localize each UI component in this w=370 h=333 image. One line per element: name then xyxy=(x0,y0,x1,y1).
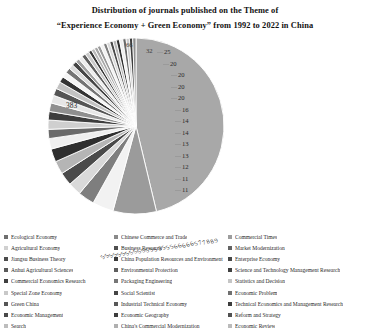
legend-swatch-icon xyxy=(4,313,8,317)
legend-swatch-icon xyxy=(228,268,232,272)
pie-leader-line xyxy=(171,98,177,99)
legend-item[interactable]: China's Commercial Modernization xyxy=(114,321,230,332)
pie-wrap xyxy=(46,36,226,216)
legend-item[interactable]: Commercial Times xyxy=(228,231,370,242)
pie-callout-label: 16 xyxy=(182,106,189,113)
pie-callout-label: 12 xyxy=(182,163,189,170)
legend-item-label: Search xyxy=(11,323,26,329)
legend-item-label: Technical Economics and Management Resea… xyxy=(235,301,343,307)
legend-item[interactable]: Reform and Strategy xyxy=(228,309,370,320)
legend-swatch-icon xyxy=(114,302,118,306)
legend-item[interactable]: Market Modernization xyxy=(228,242,370,253)
legend-swatch-icon xyxy=(114,246,118,250)
chart-title-line-1: Distribution of journals published on th… xyxy=(0,3,370,18)
legend-item[interactable]: Chinese Commerce and Trade xyxy=(114,231,230,242)
legend-swatch-icon xyxy=(114,257,118,261)
legend-swatch-icon xyxy=(114,324,118,328)
legend-swatch-icon xyxy=(4,257,8,261)
legend-swatch-icon xyxy=(228,291,232,295)
pie-callout-label: 11 xyxy=(182,186,188,193)
legend-item-label: Agricultural Economy xyxy=(11,245,60,251)
legend-swatch-icon xyxy=(114,235,118,239)
pie-leader-line xyxy=(171,87,177,88)
legend-item[interactable]: Packaging Engineering xyxy=(114,276,230,287)
pie-leader-line xyxy=(157,52,163,53)
legend-item-label: Market Modernization xyxy=(235,245,285,251)
pie-leader-line xyxy=(175,179,181,180)
legend-item[interactable]: Industrial Technical Economy xyxy=(114,298,230,309)
legend-column-1: Ecological EconomyAgricultural EconomyJi… xyxy=(4,231,116,332)
pie-leader-line xyxy=(163,64,169,65)
pie-leader-line xyxy=(171,75,177,76)
legend-swatch-icon xyxy=(4,291,8,295)
legend-item[interactable]: Enterprise Economy xyxy=(228,253,370,264)
legend-swatch-icon xyxy=(4,324,8,328)
legend-item-label: Science and Technology Management Resear… xyxy=(235,267,340,273)
pie-callout-label: 20 xyxy=(170,60,177,67)
legend-item[interactable]: Search xyxy=(4,321,116,332)
legend-item-label: Industrial Technical Economy xyxy=(121,301,187,307)
pie-leader-line xyxy=(175,133,181,134)
legend-item-label: Packaging Engineering xyxy=(121,278,172,284)
pie-label-major: 383 xyxy=(66,102,77,109)
legend-item[interactable]: Commercial Economics Research xyxy=(4,276,116,287)
legend-item-label: Green China xyxy=(11,301,39,307)
legend-item[interactable]: Technical Economics and Management Resea… xyxy=(228,298,370,309)
legend-item-label: Enterprise Economy xyxy=(235,256,280,262)
pie-chart-area: 383663225202020201614141313121111 555555… xyxy=(0,36,370,228)
pie-chart xyxy=(46,36,226,216)
legend-item[interactable]: Green China xyxy=(4,298,116,309)
legend-item-label: Environmental Protection xyxy=(121,267,178,273)
legend-item[interactable]: Special Zone Economy xyxy=(4,287,116,298)
legend-swatch-icon xyxy=(228,324,232,328)
legend-item[interactable]: Agricultural Economy xyxy=(4,242,116,253)
legend-item-label: Statistics and Decision xyxy=(235,278,285,284)
legend-item[interactable]: Anhui Agricultural Sciences xyxy=(4,265,116,276)
legend-swatch-icon xyxy=(114,279,118,283)
legend-item[interactable]: Science and Technology Management Resear… xyxy=(228,265,370,276)
chart-page: Distribution of journals published on th… xyxy=(0,0,370,333)
legend-swatch-icon xyxy=(228,302,232,306)
pie-leader-line xyxy=(175,167,181,168)
pie-leader-line xyxy=(175,190,181,191)
pie-callout-label: 13 xyxy=(182,140,189,147)
legend-swatch-icon xyxy=(228,279,232,283)
pie-leader-line xyxy=(175,156,181,157)
pie-callout-label: 20 xyxy=(178,83,185,90)
legend-swatch-icon xyxy=(228,313,232,317)
legend-item-label: China Population Resources and Environme… xyxy=(121,256,223,262)
legend-item-label: Economic Management xyxy=(11,312,63,318)
legend-swatch-icon xyxy=(114,268,118,272)
pie-callout-label: 13 xyxy=(182,152,189,159)
legend-item[interactable]: Economic Problem xyxy=(228,287,370,298)
legend-item-label: Economic Geography xyxy=(121,312,169,318)
pie-callout-label: 20 xyxy=(178,94,185,101)
chart-title-line-2: “Experience Economy + Green Economy” fro… xyxy=(0,18,370,33)
legend-item-label: China's Commercial Modernization xyxy=(121,323,200,329)
legend-swatch-icon xyxy=(4,302,8,306)
legend-item[interactable]: Jiangsu Business Theory xyxy=(4,253,116,264)
pie-label-inside: 66 xyxy=(126,41,133,48)
legend-item[interactable]: Social Scientist xyxy=(114,287,230,298)
legend-item[interactable]: Economic Management xyxy=(4,309,116,320)
legend-item-label: Commercial Times xyxy=(235,234,277,240)
legend-item[interactable]: Statistics and Decision xyxy=(228,276,370,287)
legend-item[interactable]: Economic Geography xyxy=(114,309,230,320)
legend-item[interactable]: Environmental Protection xyxy=(114,265,230,276)
legend-item[interactable]: Business Research xyxy=(114,242,230,253)
legend-item-label: Jiangsu Business Theory xyxy=(11,256,66,262)
legend-item[interactable]: China Population Resources and Environme… xyxy=(114,253,230,264)
legend-item-label: Economic Problem xyxy=(235,290,277,296)
chart-title: Distribution of journals published on th… xyxy=(0,3,370,33)
pie-callout-label: 25 xyxy=(164,48,171,55)
legend-swatch-icon xyxy=(4,246,8,250)
pie-leader-line xyxy=(175,121,181,122)
legend-swatch-icon xyxy=(228,235,232,239)
legend-item[interactable]: Economic Review xyxy=(228,321,370,332)
pie-label-inside: 32 xyxy=(146,47,153,54)
legend-item-label: Reform and Strategy xyxy=(235,312,281,318)
pie-callout-label: 14 xyxy=(182,117,189,124)
legend-item-label: Commercial Economics Research xyxy=(11,278,86,284)
legend-item[interactable]: Ecological Economy xyxy=(4,231,116,242)
pie-leader-line xyxy=(175,144,181,145)
